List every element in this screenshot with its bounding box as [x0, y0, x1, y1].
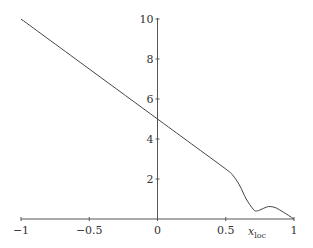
x-axis-label: xloc: [248, 225, 267, 240]
x-tick-label: −0.5: [76, 224, 103, 237]
y-tick-label: 10: [140, 13, 154, 26]
x-tick-label: 1: [291, 224, 298, 237]
chart-canvas: −1−0.500.51246810 xloc: [0, 0, 313, 248]
y-tick-label: 2: [147, 173, 154, 186]
tick-labels: −1−0.500.51246810: [13, 13, 298, 237]
y-tick-label: 8: [147, 53, 154, 66]
x-tick-label: 0: [154, 224, 161, 237]
y-tick-label: 4: [147, 133, 154, 146]
y-tick-label: 6: [147, 93, 154, 106]
x-tick-label: 0.5: [217, 224, 235, 237]
x-tick-label: −1: [13, 224, 29, 237]
